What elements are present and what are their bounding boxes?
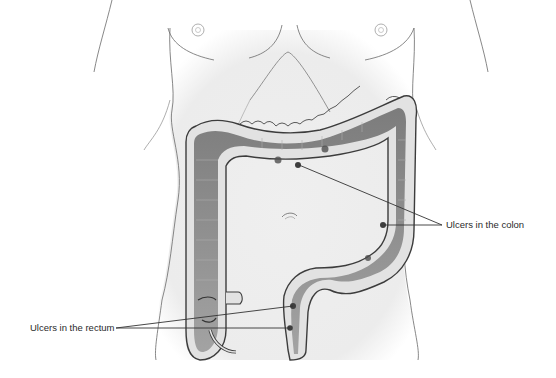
ulcer-spot [275,157,282,164]
label-ulcers-colon: Ulcers in the colon [446,220,524,230]
label-ulcers-rectum: Ulcers in the rectum [30,323,114,333]
ulcer-spot [365,255,371,261]
ulcer-spot [322,146,329,153]
